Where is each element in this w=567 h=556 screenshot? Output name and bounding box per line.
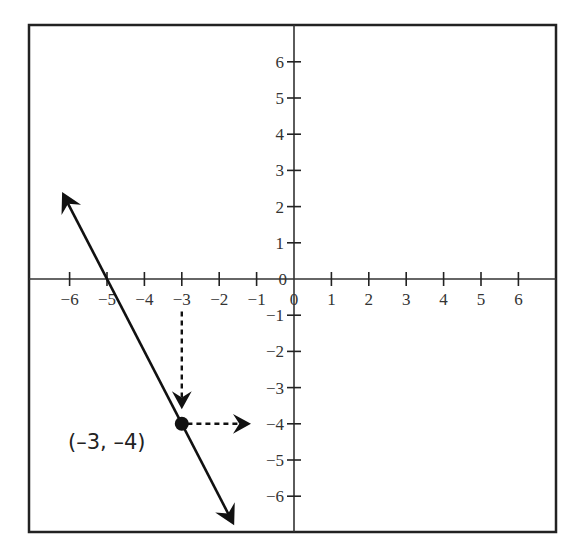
coordinate-plane: −6−5−4−3−2−101234560 654321−1−2−3−4−5−6 … [0,0,567,556]
x-tick-label: 4 [439,290,448,309]
point-dot [175,417,189,431]
y-tick-label: 4 [276,125,285,144]
x-tick-label: 3 [402,290,411,309]
x-tick-label: −3 [173,290,191,309]
y-tick-label: −6 [266,487,284,506]
y-tick-label: 5 [276,89,285,108]
y-tick-label: −4 [266,415,285,434]
y-tick-label: −5 [266,451,284,470]
x-tick-label: −6 [61,290,79,309]
dashed-guides [172,312,251,434]
x-tick-label: −1 [248,290,266,309]
graph-line [68,203,229,515]
x-tick-label: 2 [365,290,374,309]
x-tick-label: 5 [477,290,486,309]
y-tick-label: −1 [266,306,284,325]
y-tick-label: 3 [276,161,285,180]
x-tick-label: 1 [327,290,336,309]
y-tick-label: −3 [266,379,284,398]
x-tick-label: −2 [210,290,228,309]
x-tick-label: 6 [514,290,523,309]
x-axis-ticks: −6−5−4−3−2−101234560 [61,270,523,309]
line-graph [62,192,235,525]
x-tick-label: 0 [290,290,299,309]
y-tick-label: 2 [276,198,285,217]
origin-label: 0 [279,270,288,289]
y-tick-label: 6 [276,53,285,72]
y-tick-label: 1 [276,234,285,253]
plotted-point [175,417,189,431]
point-label: (–3, –4) [68,430,145,454]
x-tick-label: −4 [135,290,154,309]
y-tick-label: −2 [266,342,284,361]
